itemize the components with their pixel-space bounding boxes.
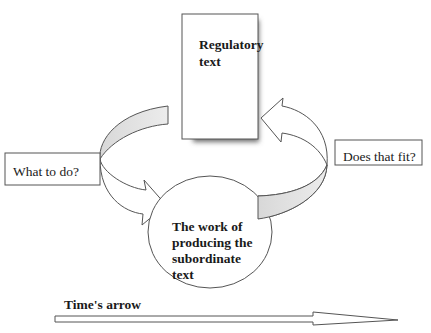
regulatory-line-2: text [199, 53, 279, 70]
work-line-3: subordinate [172, 251, 272, 267]
arrow-head-up [261, 98, 327, 165]
does-that-fit-label: Does that fit? [343, 149, 416, 165]
work-line-1: The work of [172, 219, 272, 235]
time-arrow-icon [55, 312, 398, 325]
work-line-4: text [172, 267, 272, 283]
work-label: The work of producing the subordinate te… [172, 219, 272, 283]
arrow-band-shaded [100, 106, 168, 159]
work-line-2: producing the [172, 235, 272, 251]
regulatory-document [182, 14, 259, 142]
regulatory-text-label: Regulatory text [199, 36, 279, 70]
document-icon [182, 14, 258, 139]
arrow-band-overlay [258, 165, 327, 219]
time-arrow-label: Time's arrow [64, 297, 141, 313]
what-to-do-label: What to do? [13, 164, 79, 180]
regulatory-line-1: Regulatory [199, 36, 279, 53]
